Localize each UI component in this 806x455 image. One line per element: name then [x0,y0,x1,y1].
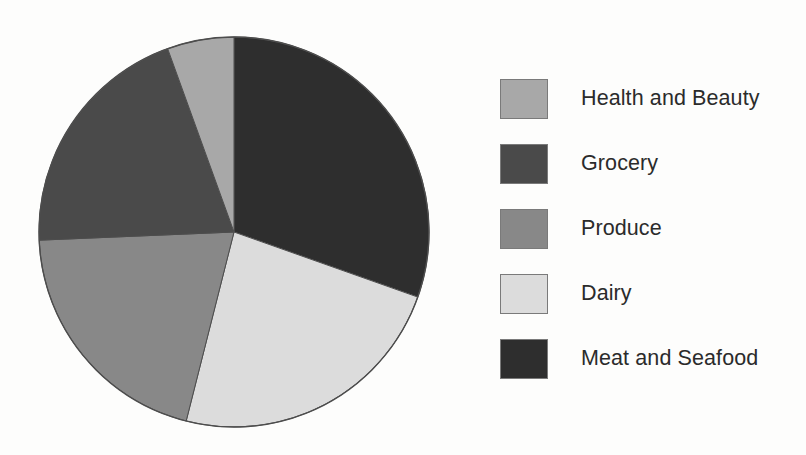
legend-swatch-produce [500,209,548,249]
legend-swatch-meat-and-seafood [500,339,548,379]
legend-item-meat-and-seafood[interactable]: Meat and Seafood [500,338,800,380]
legend-item-produce[interactable]: Produce [500,208,800,250]
pie-chart-plot-area [36,35,432,431]
pie-slice-group [39,37,429,427]
legend-swatch-health-and-beauty [500,79,548,119]
pie-chart-figure: Health and Beauty Grocery Produce Dairy … [0,0,806,455]
legend-label-grocery: Grocery [581,153,658,175]
legend-swatch-dairy [500,274,548,314]
pie-chart-svg [36,35,432,431]
legend-swatch-grocery [500,144,548,184]
legend-label-dairy: Dairy [581,283,632,305]
chart-legend: Health and Beauty Grocery Produce Dairy … [500,78,800,380]
legend-label-meat-and-seafood: Meat and Seafood [581,348,758,370]
legend-item-grocery[interactable]: Grocery [500,143,800,185]
legend-item-dairy[interactable]: Dairy [500,273,800,315]
legend-label-produce: Produce [581,218,662,240]
legend-label-health-and-beauty: Health and Beauty [581,88,760,110]
legend-item-health-and-beauty[interactable]: Health and Beauty [500,78,800,120]
